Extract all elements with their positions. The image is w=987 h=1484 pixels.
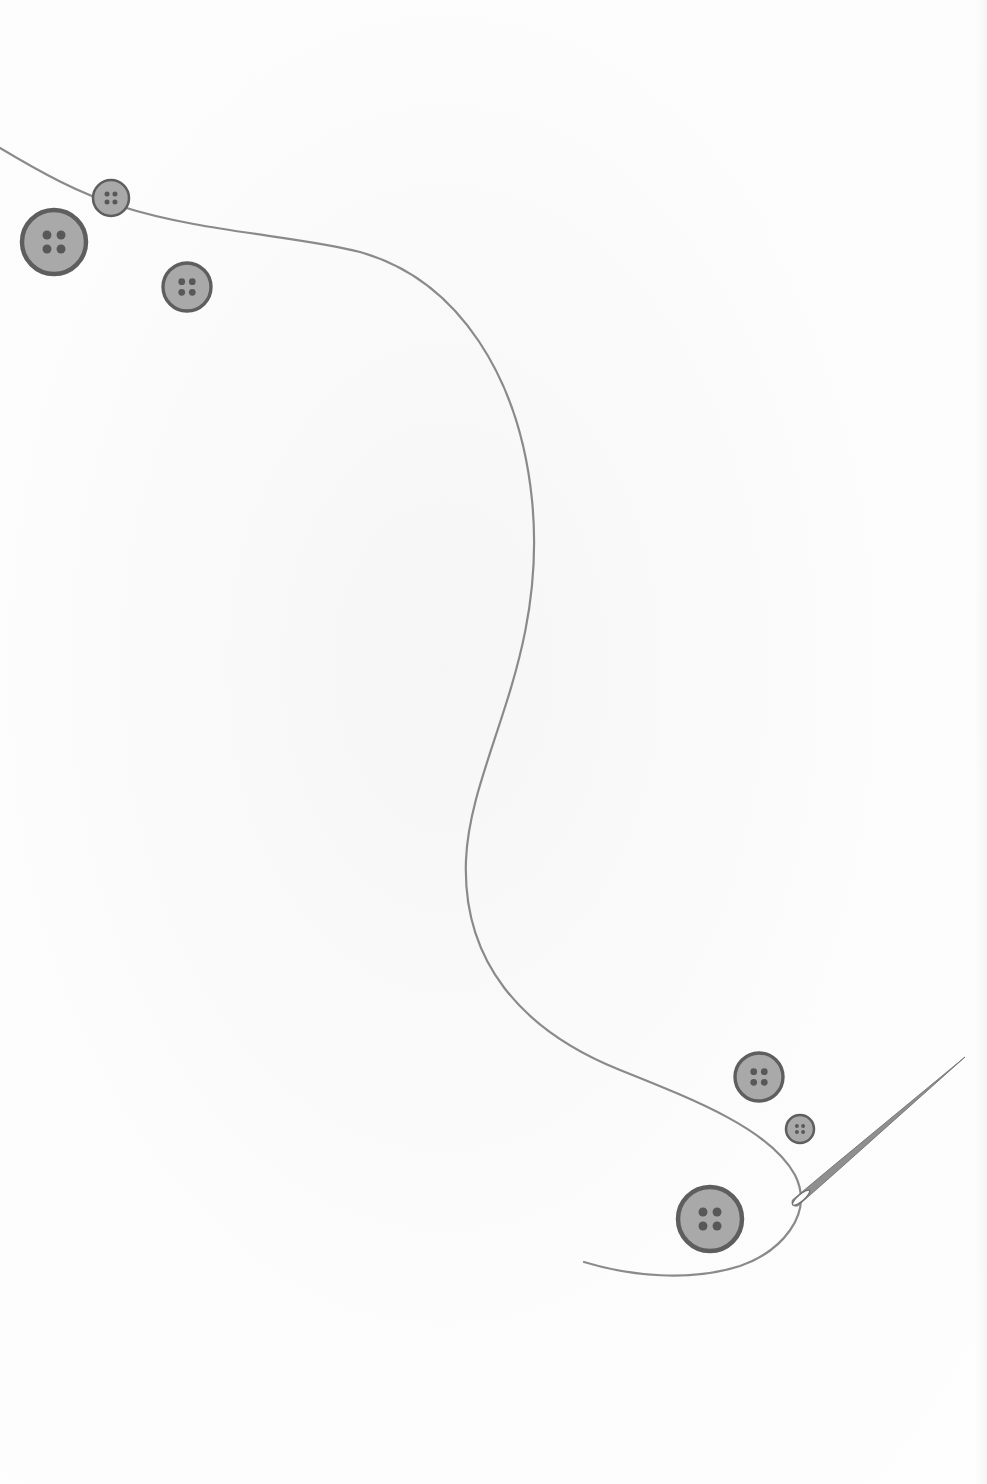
button-small-top-icon bbox=[93, 180, 129, 216]
button-medium-top-icon bbox=[163, 263, 211, 311]
button-medium-bottom-icon bbox=[735, 1053, 783, 1101]
thread-line bbox=[0, 148, 801, 1276]
sewing-illustration bbox=[0, 0, 987, 1484]
needle-icon bbox=[790, 1054, 967, 1208]
page-edge-shadow bbox=[975, 0, 987, 1484]
button-tiny-bottom-icon bbox=[786, 1115, 814, 1143]
button-large-top-icon bbox=[22, 210, 86, 274]
button-large-bottom-icon bbox=[678, 1187, 742, 1251]
stationery-page bbox=[0, 0, 987, 1484]
